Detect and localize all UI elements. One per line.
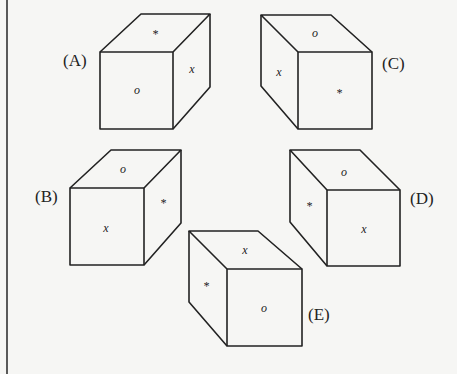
- option-label-b: (B): [35, 188, 58, 205]
- option-label-e: (E): [308, 306, 330, 323]
- cube-d-front-symbol: x: [360, 222, 367, 236]
- cube-e-top-symbol: x: [241, 243, 248, 257]
- cube-c-front-symbol: *: [336, 86, 342, 100]
- cube-b-front-symbol: x: [102, 221, 109, 235]
- cube-a-side-symbol: x: [188, 62, 195, 76]
- cube-c-top-symbol: o: [312, 26, 318, 40]
- option-label-a: (A): [63, 52, 87, 69]
- cube-d-top-symbol: o: [341, 165, 347, 179]
- cube-e-front-symbol: o: [261, 301, 267, 315]
- cube-c-side-symbol: x: [275, 65, 282, 79]
- cube-b-side-symbol: *: [160, 196, 166, 210]
- figure-canvas: * o x o * x o x * o x * x o * (A) (B) (C…: [0, 0, 457, 374]
- cube-d-side-symbol: *: [306, 199, 312, 213]
- option-label-c: (C): [382, 55, 405, 72]
- cube-b-top-symbol: o: [120, 162, 126, 176]
- option-label-d: (D): [410, 190, 434, 207]
- cube-a-top-symbol: *: [152, 27, 158, 41]
- cube-a-front-symbol: o: [134, 83, 140, 97]
- cube-e-side-symbol: *: [203, 279, 209, 293]
